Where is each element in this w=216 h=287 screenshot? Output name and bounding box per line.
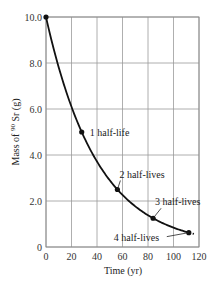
x-tick-label: 100	[166, 251, 181, 262]
x-tick-label: 0	[44, 251, 49, 262]
y-axis-ticks: 02.04.06.08.010.0	[25, 12, 43, 253]
data-point	[43, 14, 48, 19]
annotation-label: 3 half-lives	[155, 196, 200, 207]
x-axis-ticks: 020406080100120	[44, 251, 207, 262]
annotation-label: 1 half-life	[90, 127, 130, 138]
y-tick-label: 2.0	[30, 196, 43, 207]
y-tick-label: 4.0	[30, 150, 43, 161]
annotation-leader	[167, 233, 189, 237]
annotation-label: 2 half-lives	[119, 169, 164, 180]
x-tick-label: 120	[192, 251, 207, 262]
annotation-label: 4 half-lives	[114, 232, 159, 243]
decay-chart: 02.04.06.08.010.0 020406080100120 1 half…	[0, 0, 216, 287]
annotation-leader	[153, 208, 161, 218]
y-tick-label: 10.0	[25, 12, 43, 23]
y-tick-label: 6.0	[30, 104, 43, 115]
y-tick-label: 8.0	[30, 58, 43, 69]
x-axis-label: Time (yr)	[104, 265, 142, 277]
x-tick-label: 60	[118, 251, 128, 262]
x-tick-label: 20	[67, 251, 77, 262]
x-tick-label: 40	[92, 251, 102, 262]
data-point	[79, 129, 84, 134]
y-axis-label: Mass of 90 Sr (g)	[9, 98, 22, 165]
annotations: 1 half-life2 half-lives3 half-lives4 hal…	[90, 127, 201, 243]
x-tick-label: 80	[143, 251, 153, 262]
y-tick-label: 0	[37, 242, 42, 253]
